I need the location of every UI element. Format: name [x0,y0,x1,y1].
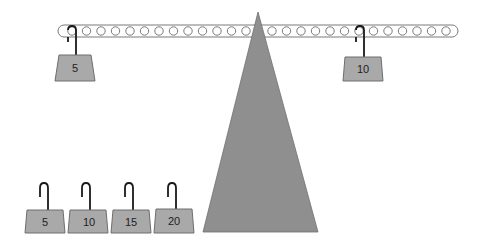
fulcrum [203,12,318,232]
balance-scene: 5 10 5 10 15 20 [0,0,486,248]
beam-hole[interactable] [369,27,377,35]
beam-hole[interactable] [140,27,148,35]
beam-hole[interactable] [155,27,163,35]
weight-label: 15 [125,216,137,228]
beam-hole[interactable] [340,27,348,35]
beam-hole[interactable] [126,27,134,35]
beam-hole[interactable] [82,27,90,35]
weight-label: 5 [42,216,48,228]
beam-hole[interactable] [398,27,406,35]
hook-icon [168,183,176,209]
beam-hole[interactable] [311,27,319,35]
beam-hole[interactable] [198,27,206,35]
beam-hole[interactable] [213,27,221,35]
beam-hole[interactable] [97,27,105,35]
beam-hole[interactable] [326,27,334,35]
weight-label: 20 [168,215,180,227]
hook-icon [40,183,48,210]
tray-weight-5[interactable]: 5 [25,183,65,233]
beam-hole[interactable] [184,27,192,35]
beam-hole[interactable] [442,27,450,35]
beam-hole[interactable] [427,27,435,35]
beam-hole[interactable] [111,27,119,35]
weight-label: 10 [357,63,369,75]
beam-hole[interactable] [413,27,421,35]
beam-hole[interactable] [384,27,392,35]
tray-weight-15[interactable]: 15 [111,183,151,233]
beam-hole[interactable] [297,27,305,35]
hook-icon [82,183,90,210]
beam-hole[interactable] [242,27,250,35]
beam-hole[interactable] [268,27,276,35]
tray-weight-20[interactable]: 20 [154,183,194,233]
beam-hole[interactable] [227,27,235,35]
weight-label: 5 [72,62,78,74]
weight-label: 10 [83,216,95,228]
weight-tray: 5 10 15 20 [25,183,194,233]
beam-hole[interactable] [282,27,290,35]
tray-weight-10[interactable]: 10 [68,183,108,233]
hook-icon [125,183,133,210]
beam-hole[interactable] [169,27,177,35]
